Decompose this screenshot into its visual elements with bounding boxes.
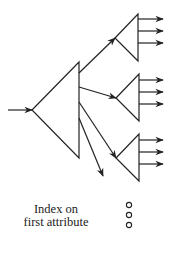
root-pointer-arrow-1 <box>79 38 115 73</box>
child-index-triangle-2 <box>116 74 139 121</box>
caption-line-1: Index on <box>34 202 79 216</box>
child-index-triangle-1 <box>115 14 138 61</box>
child-index-triangle-3 <box>116 134 139 181</box>
ellipsis-dot-1 <box>126 202 131 207</box>
diagram-shapes <box>8 14 163 228</box>
ellipsis-dot-3 <box>126 222 131 227</box>
root-pointer-arrow-2 <box>79 87 116 98</box>
root-pointer-arrow-4 <box>79 118 103 176</box>
root-index-triangle <box>32 62 79 158</box>
ellipsis-dot-2 <box>126 212 131 217</box>
index-tree-diagram: Index on first attribute <box>0 0 173 253</box>
caption-line-2: first attribute <box>24 215 89 229</box>
